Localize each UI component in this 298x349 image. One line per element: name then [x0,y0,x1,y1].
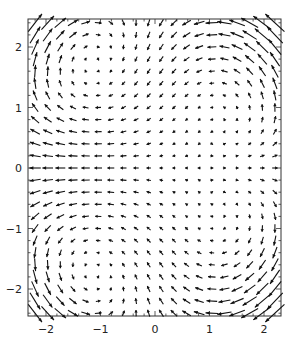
arrow-head-icon [273,230,276,233]
arrow-head-icon [71,264,74,267]
arrow-head-icon [261,229,264,232]
arrow-head-icon [206,299,210,302]
arrow-head-icon [95,106,98,109]
arrow-head-icon [273,103,276,106]
arrow-head-icon [208,275,211,278]
arrow-head-icon [95,118,98,121]
arrow-head-icon [133,154,136,157]
arrow-head-icon [95,203,98,206]
arrow-head-icon [185,166,188,169]
arrow-head-icon [95,190,98,193]
arrow-head-icon [47,54,50,58]
arrow-head-icon [223,166,226,169]
x-axis-tick-labels: −2−1012 [38,323,268,336]
arrow-head-icon [94,154,97,157]
arrow-head-icon [95,130,98,133]
arrow-head-icon [55,179,59,182]
arrow-head-icon [82,203,85,206]
arrow-head-icon [207,287,210,290]
arrow-head-icon [134,35,137,38]
arrow-head-icon [59,68,62,71]
arrow-head-icon [97,251,100,254]
arrow-head-icon [108,130,111,133]
arrow-head-icon [134,298,137,301]
arrow-head-icon [82,215,85,218]
arrow-head-icon [108,142,111,145]
arrow-head-icon [96,94,99,97]
arrow-head-icon [42,166,46,169]
arrow-head-icon [211,154,214,157]
arrow-head-icon [46,266,49,269]
arrow-head-icon [210,239,213,242]
arrow-head-icon [108,190,111,193]
arrow-head-icon [81,154,84,157]
arrow-head-icon [210,94,213,97]
y-tick-label: 0 [15,162,22,175]
arrow-head-icon [82,130,85,133]
arrow-head-icon [194,22,198,25]
arrow-head-icon [95,227,98,230]
y-tick-label: −1 [6,223,22,236]
arrow-head-icon [133,166,136,169]
arrow-head-icon [81,166,84,169]
arrow-head-icon [133,178,136,181]
arrow-head-icon [206,311,210,314]
arrow-head-icon [107,178,110,181]
arrow-head-icon [82,191,85,194]
arrow-head-icon [94,178,97,181]
arrow-head-icon [220,276,223,279]
y-tick-label: 2 [15,41,22,54]
arrow-head-icon [273,90,276,94]
arrow-head-icon [120,166,123,169]
arrow-head-icon [211,166,214,169]
arrow-head-icon [134,23,137,26]
plot-frame [28,19,281,316]
arrow-head-icon [273,78,276,82]
arrow-head-icon [34,65,37,69]
y-axis-tick-labels: −2−1012 [6,41,22,296]
arrow-head-icon [198,142,201,145]
arrow-head-icon [68,154,71,157]
vector-field-plot: −2−1012 −2−1012 [0,0,298,349]
arrow-head-icon [59,266,62,269]
arrow-head-icon [98,299,101,302]
x-tick-label: −1 [92,323,108,336]
arrow-head-icon [160,166,163,169]
arrow-head-icon [229,20,233,23]
axis-ticks [28,19,281,316]
arrow-head-icon [211,179,214,182]
arrow-head-icon [230,32,234,35]
arrow-head-icon [94,166,97,169]
y-tick-label: 1 [15,102,22,115]
arrow-head-icon [120,178,123,181]
arrow-head-icon [30,142,34,145]
x-tick-label: 0 [152,323,159,336]
arrow-head-icon [198,166,201,169]
arrow-head-icon [209,251,212,254]
arrow-head-icon [95,142,98,145]
arrow-head-icon [198,191,201,194]
arrow-head-icon [273,242,276,246]
arrow-head-icon [55,166,58,169]
arrow-head-icon [30,191,34,194]
arrow-head-icon [46,66,49,69]
arrow-head-icon [122,287,125,290]
arrow-head-icon [146,166,149,169]
arrow-head-icon [29,166,33,169]
arrow-head-icon [108,203,111,206]
arrow-head-icon [273,254,276,258]
arrow-head-icon [71,69,74,72]
arrow-head-icon [134,310,137,313]
vector-arrows [28,14,284,322]
arrow-head-icon [209,263,212,266]
arrow-head-icon [236,166,239,169]
arrow-head-icon [209,70,212,73]
arrow-head-icon [209,82,212,85]
arrow-head-icon [82,142,85,145]
arrow-head-icon [55,154,59,157]
x-tick-label: −2 [38,323,54,336]
arrow-head-icon [261,104,264,107]
arrow-head-icon [82,118,85,121]
x-tick-label: 1 [206,323,213,336]
arrow-head-icon [68,178,71,181]
